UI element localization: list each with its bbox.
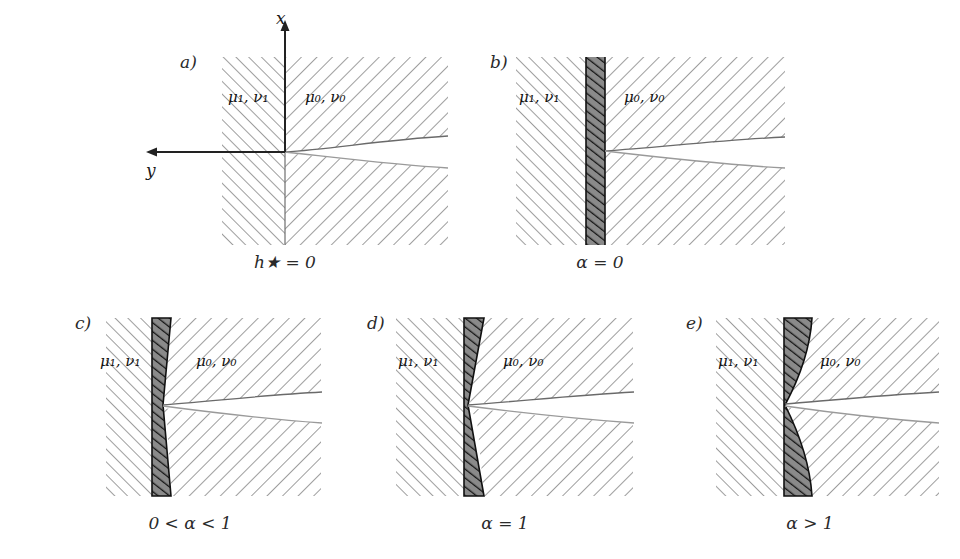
panel-b-interphase-band [586,57,605,245]
panel-e-left-hatch [716,318,784,496]
panel-b-left-material: μ₁, ν₁ [519,88,559,106]
panel-d-left-hatch [396,318,468,496]
panel-e-graphic [716,318,939,496]
panel-b-right-hatch [605,57,785,245]
figure-root: x y a) b) c) d) e) μ₁, ν₁ μ₀, ν₀ μ₁, ν₁ … [0,0,960,559]
y-axis-arrow [146,148,157,157]
panel-label-c: c) [75,313,91,333]
y-axis-label: y [146,160,156,180]
panel-a-right-material: μ₀, ν₀ [305,88,345,106]
panel-label-e: e) [686,313,703,333]
panel-b-caption: α = 0 [550,252,650,272]
panel-c-right-material: μ₀, ν₀ [196,352,236,370]
figure-canvas [0,0,960,559]
panel-d-left-material: μ₁, ν₁ [398,352,438,370]
panel-b-right-material: μ₀, ν₀ [624,88,664,106]
panel-d-caption: α = 1 [455,513,555,533]
x-axis-label: x [276,8,286,28]
panel-c-graphic [106,318,322,496]
panel-b-left-hatch [516,57,586,245]
panel-a-left-material: μ₁, ν₁ [228,88,268,106]
panel-c-caption: 0 < α < 1 [130,513,250,533]
panel-label-d: d) [367,313,385,333]
panel-e-right-material: μ₀, ν₀ [820,352,860,370]
panel-e-caption: α > 1 [760,513,860,533]
panel-c-left-material: μ₁, ν₁ [100,352,140,370]
panel-label-a: a) [180,52,197,72]
panel-b-graphic [516,57,785,245]
panel-d-right-hatch [470,318,634,496]
panel-c-left-hatch [106,318,156,496]
panel-label-b: b) [490,52,508,72]
panel-a-caption: h★ = 0 [235,252,335,272]
panel-a-right-hatch [285,57,448,245]
panel-c-right-hatch [163,318,322,496]
panel-d-graphic [396,318,634,496]
panel-e-left-material: μ₁, ν₁ [718,352,758,370]
panel-d-right-material: μ₀, ν₀ [503,352,543,370]
